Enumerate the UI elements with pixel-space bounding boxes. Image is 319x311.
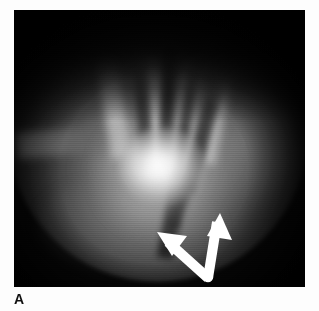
radiograph-frame — [14, 10, 305, 287]
panel-label: A — [14, 291, 24, 307]
figure-panel: A — [0, 0, 319, 311]
film-grain-texture — [14, 10, 305, 287]
